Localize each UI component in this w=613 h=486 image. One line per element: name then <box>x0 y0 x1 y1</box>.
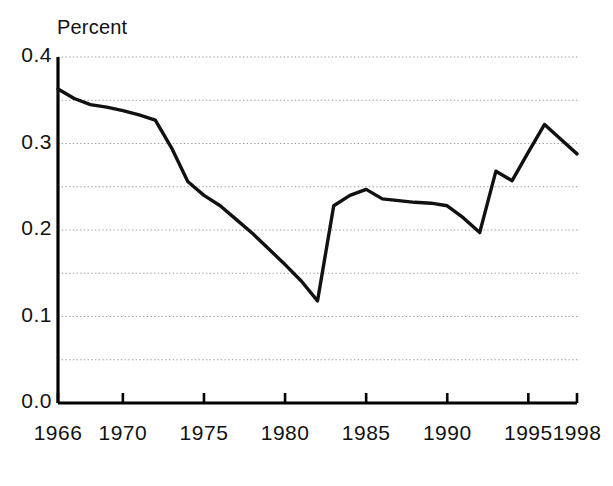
x-axis-tick-label: 1975 <box>180 421 229 445</box>
line-chart: Percent 0.00.10.20.30.4 1966197019751980… <box>0 0 613 486</box>
plot-area <box>0 0 613 486</box>
y-axis-tick-label: 0.1 <box>0 303 52 327</box>
gridlines <box>58 57 580 360</box>
x-axis-tick-label: 1970 <box>99 421 148 445</box>
y-axis-tick-label: 0.4 <box>0 43 52 67</box>
data-series-line <box>58 89 577 301</box>
y-axis-tick-label: 0.2 <box>0 216 52 240</box>
x-axis-tick-label: 1980 <box>261 421 310 445</box>
y-axis-tick-label: 0.0 <box>0 389 52 413</box>
x-axis-tick-label: 1998 <box>553 421 602 445</box>
y-axis-tick-label: 0.3 <box>0 130 52 154</box>
x-axis-tick-label: 1966 <box>34 421 83 445</box>
x-axis-tick-label: 1990 <box>423 421 472 445</box>
x-axis-tick-label: 1985 <box>342 421 391 445</box>
x-axis-tick-label: 1995 <box>504 421 553 445</box>
